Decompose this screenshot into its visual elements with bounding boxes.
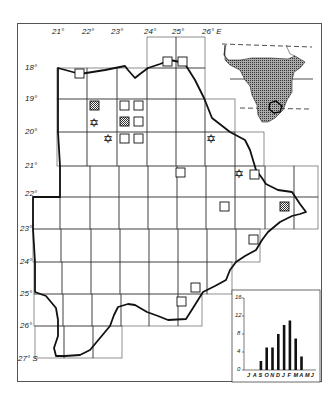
chart-month-label: A: [299, 372, 303, 378]
chart-bar: [271, 348, 274, 371]
africa-inset: [222, 44, 313, 122]
chart-month-label: J: [282, 372, 285, 378]
chart-ytick: 16: [235, 294, 242, 300]
latitude-label: 22°: [25, 189, 37, 198]
chart-bar: [294, 339, 297, 371]
svg-text:✡: ✡: [103, 132, 113, 146]
map-canvas: ✡ ✡ ✡ ✡: [0, 0, 336, 403]
chart-bar: [283, 325, 286, 370]
longitude-label: 22°: [82, 27, 94, 36]
latitude-label: 25°: [20, 289, 32, 298]
latitude-label: 23°: [20, 224, 32, 233]
chart-month-label: M: [293, 372, 298, 378]
latitude-label: 21°: [25, 161, 37, 170]
latitude-label: 18°: [25, 63, 37, 72]
svg-text:✡: ✡: [234, 167, 244, 181]
longitude-label: 25°: [172, 27, 184, 36]
svg-text:✡: ✡: [206, 132, 216, 146]
chart-month-label: N: [270, 372, 274, 378]
chart-month-label: D: [276, 372, 280, 378]
chart-month-label: F: [288, 372, 291, 378]
chart-bar: [300, 357, 303, 371]
chart-ytick: 4: [237, 348, 240, 354]
chart-bar: [265, 348, 268, 371]
chart-bar: [277, 334, 280, 370]
latitude-label: 24°: [20, 257, 32, 266]
svg-text:✡: ✡: [89, 116, 99, 130]
longitude-label: 26° E: [202, 27, 222, 36]
chart-month-label: A: [253, 372, 257, 378]
chart-bar: [260, 361, 263, 370]
latitude-label: 19°: [25, 94, 37, 103]
chart-ytick: 12: [235, 312, 242, 318]
chart-ytick: 0: [237, 366, 240, 372]
chart-month-label: O: [264, 372, 268, 378]
chart-ytick: 8: [237, 330, 240, 336]
latitude-label: 26°: [20, 321, 32, 330]
seasonal-bar-chart: [232, 290, 320, 382]
chart-month-label: M: [305, 372, 310, 378]
chart-month-label: J: [311, 372, 314, 378]
latitude-label: 27° S: [18, 354, 38, 363]
longitude-label: 24°: [144, 27, 156, 36]
chart-month-label: J: [247, 372, 250, 378]
chart-bar: [289, 321, 292, 371]
chart-month-label: S: [259, 372, 263, 378]
longitude-label: 23°: [111, 27, 123, 36]
latitude-label: 20°: [25, 127, 37, 136]
longitude-label: 21°: [52, 27, 64, 36]
